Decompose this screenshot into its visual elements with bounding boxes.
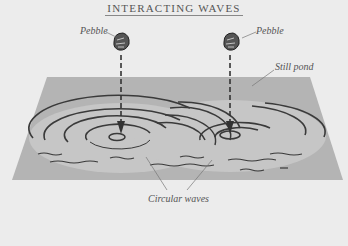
diagram-title-text: INTERACTING WAVES [105, 2, 242, 16]
leader-pebble-right [242, 32, 256, 38]
pebble-left [114, 33, 129, 50]
label-pebble-left: Pebble [80, 25, 108, 36]
pebble-right [224, 33, 239, 50]
label-pebble-right: Pebble [256, 25, 284, 36]
diagram-illustration [0, 0, 348, 246]
interacting-waves-diagram: INTERACTING WAVES Pebble Pebble Still po… [0, 0, 348, 246]
label-still-pond: Still pond [275, 61, 314, 72]
diagram-title: INTERACTING WAVES [0, 2, 348, 14]
label-circular-waves: Circular waves [148, 193, 209, 204]
